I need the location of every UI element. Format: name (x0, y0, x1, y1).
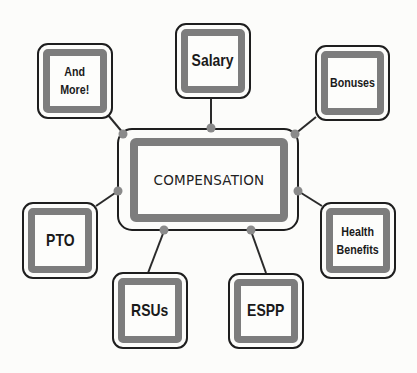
dot-right (294, 187, 303, 196)
node-rsus: RSUs (112, 272, 188, 349)
compensation-diagram: COMPENSATION Salary Bonuses Health Benef… (0, 0, 417, 373)
node-bonuses: Bonuses (315, 45, 390, 121)
dot-bottom-right (247, 226, 256, 235)
node-label: Salary (192, 52, 234, 70)
dot-top-right (291, 130, 300, 139)
node-health-benefits: Health Benefits (320, 202, 396, 279)
dot-bottom-left (160, 226, 169, 235)
node-espp: ESPP (228, 273, 304, 349)
node-pto: PTO (22, 202, 98, 279)
dot-left (114, 187, 123, 196)
spoke-espp (251, 231, 266, 273)
node-label: ESPP (247, 302, 284, 320)
node-label: Health Benefits (337, 223, 379, 259)
center-node-compensation: COMPENSATION (130, 138, 288, 222)
center-label: COMPENSATION (154, 172, 265, 188)
dot-top (207, 124, 216, 133)
node-label: Bonuses (330, 74, 375, 92)
node-label: PTO (46, 232, 74, 250)
node-salary: Salary (175, 23, 251, 99)
node-and-more: And More! (37, 43, 113, 119)
spoke-rsus (148, 231, 164, 273)
node-label: RSUs (131, 302, 168, 320)
dot-top-left (119, 130, 128, 139)
node-label: And More! (60, 63, 89, 99)
